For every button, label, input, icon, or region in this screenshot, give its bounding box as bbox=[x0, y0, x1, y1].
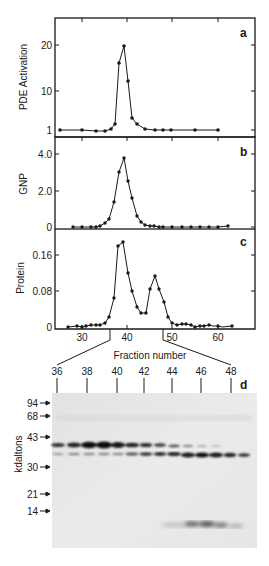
panel-c-letter: c bbox=[240, 235, 247, 249]
panel-c-points bbox=[66, 240, 233, 328]
lane-label: 42 bbox=[138, 366, 150, 377]
panel-a: 20 10 1 PDE Activation a bbox=[18, 18, 255, 137]
mw-marker-label: 14 bbox=[27, 506, 39, 517]
mw-markers: 94 68 43 30 21 14 bbox=[27, 398, 50, 517]
panel-a-ytick: 20 bbox=[41, 40, 53, 51]
panel-b-points bbox=[71, 156, 229, 228]
lane-ticks bbox=[57, 378, 231, 394]
lane-label: 46 bbox=[195, 366, 207, 377]
panel-d-ylabel: kdaltons bbox=[13, 435, 24, 472]
panel-a-points bbox=[58, 44, 220, 133]
panel-c-frame bbox=[55, 229, 255, 329]
mw-marker-label: 94 bbox=[27, 398, 39, 409]
mw-marker-label: 30 bbox=[27, 462, 39, 473]
panel-d-letter: d bbox=[240, 378, 247, 392]
figure: 20 10 1 PDE Activation a 4.0 2.0 0 GNP b bbox=[0, 0, 269, 566]
lane-label: 48 bbox=[225, 366, 237, 377]
panel-a-ylabel: PDE Activation bbox=[18, 44, 29, 110]
panel-a-frame bbox=[55, 18, 255, 137]
panel-b-letter: b bbox=[240, 145, 247, 159]
panel-b-line bbox=[73, 158, 228, 227]
panel-b-ylabel: GNP bbox=[18, 173, 29, 195]
lane-label: 44 bbox=[166, 366, 178, 377]
lane-label: 36 bbox=[51, 366, 63, 377]
panel-a-ytick: 1 bbox=[46, 125, 52, 136]
panel-a-letter: a bbox=[240, 26, 247, 40]
lane-label: 40 bbox=[111, 366, 123, 377]
lane-label: 38 bbox=[81, 366, 93, 377]
arrow-icon bbox=[40, 401, 50, 513]
panel-c-ytick: 0 bbox=[46, 322, 52, 333]
panel-c-xtick: 60 bbox=[212, 332, 224, 343]
panel-a-line bbox=[60, 46, 218, 131]
panel-a-ytick: 10 bbox=[41, 86, 53, 97]
panel-b-frame bbox=[55, 137, 255, 229]
panel-c-ytick: 0.08 bbox=[33, 286, 53, 297]
panel-d: 36 38 40 42 44 46 48 d bbox=[13, 366, 257, 548]
panel-c-xtick: 30 bbox=[76, 332, 88, 343]
panel-c-xtick: 40 bbox=[121, 332, 133, 343]
panel-c-ytick: 0.16 bbox=[33, 250, 53, 261]
x-axis-title: Fraction number bbox=[114, 350, 187, 361]
panel-c-line bbox=[68, 242, 232, 327]
panel-c-xtick: 50 bbox=[166, 332, 178, 343]
mw-marker-label: 21 bbox=[27, 489, 39, 500]
panel-b-ytick: 2.0 bbox=[38, 186, 52, 197]
mw-marker-label: 68 bbox=[27, 411, 39, 422]
panel-b: 4.0 2.0 0 GNP b bbox=[18, 137, 255, 233]
panel-b-ytick: 0 bbox=[46, 222, 52, 233]
panel-b-ytick: 4.0 bbox=[38, 149, 52, 160]
mw-marker-label: 43 bbox=[27, 432, 39, 443]
panel-c-ylabel: Protein bbox=[15, 262, 26, 294]
panel-c: 0.16 0.08 0 30 40 50 60 Protein c bbox=[15, 229, 255, 343]
